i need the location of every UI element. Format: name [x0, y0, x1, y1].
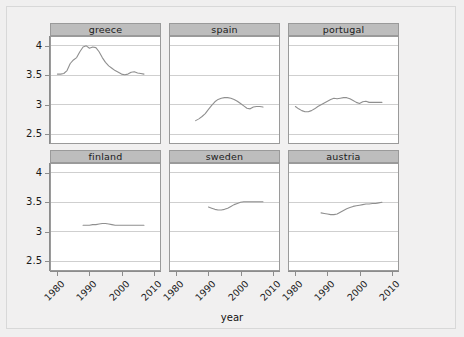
x-tick-mark: [122, 272, 123, 276]
strip-label-austria: austria: [288, 150, 399, 163]
panel-portugal: [288, 36, 399, 144]
x-tick-mark: [241, 272, 242, 276]
y-tick-label: 3.5: [12, 196, 42, 207]
strip-label-spain: spain: [169, 23, 280, 36]
strip-label-finland: finland: [50, 150, 161, 163]
strip-text: spain: [211, 24, 237, 35]
strip-text: sweden: [206, 151, 244, 162]
panel-finland: [50, 163, 161, 271]
panel-greece: [50, 36, 161, 144]
strip-text: portugal: [323, 24, 365, 35]
y-axis-line-row0: [49, 36, 50, 144]
x-axis-title: year: [0, 312, 464, 323]
x-tick-mark: [89, 272, 90, 276]
y-tick-mark: [45, 202, 50, 203]
chart-figure: greece spain portugal finland sweden aus…: [0, 0, 464, 337]
panel-sweden: [169, 163, 280, 271]
y-tick-mark: [45, 261, 50, 262]
y-axis-line-row1: [49, 163, 50, 271]
y-tick-label: 2.5: [12, 128, 42, 139]
y-tick-label: 4: [12, 167, 42, 178]
x-tick-mark: [295, 272, 296, 276]
x-tick-mark: [57, 272, 58, 276]
x-axis-line-col0: [50, 271, 161, 272]
series-line-austria: [321, 202, 382, 214]
x-axis-line-col2: [288, 271, 399, 272]
y-tick-label: 2.5: [12, 255, 42, 266]
y-tick-mark: [45, 75, 50, 76]
x-tick-mark: [208, 272, 209, 276]
series-line-spain: [196, 98, 263, 121]
series-line-finland: [83, 223, 144, 225]
strip-label-sweden: sweden: [169, 150, 280, 163]
y-tick-mark: [45, 134, 50, 135]
y-tick-label: 3: [12, 226, 42, 237]
strip-text: finland: [89, 151, 123, 162]
y-tick-mark: [45, 173, 50, 174]
x-axis-line-col1: [169, 271, 280, 272]
y-tick-label: 3: [12, 99, 42, 110]
y-tick-label: 4: [12, 40, 42, 51]
x-tick-mark: [176, 272, 177, 276]
series-line-greece: [57, 46, 144, 75]
y-tick-mark: [45, 105, 50, 106]
strip-label-greece: greece: [50, 23, 161, 36]
x-tick-mark: [392, 272, 393, 276]
y-tick-label: 3.5: [12, 69, 42, 80]
series-line-sweden: [208, 202, 263, 210]
strip-label-portugal: portugal: [288, 23, 399, 36]
x-tick-mark: [273, 272, 274, 276]
y-tick-mark: [45, 46, 50, 47]
panel-spain: [169, 36, 280, 144]
x-tick-mark: [360, 272, 361, 276]
panel-austria: [288, 163, 399, 271]
strip-text: austria: [326, 151, 360, 162]
y-tick-mark: [45, 232, 50, 233]
x-tick-mark: [154, 272, 155, 276]
x-tick-mark: [327, 272, 328, 276]
strip-text: greece: [89, 24, 123, 35]
